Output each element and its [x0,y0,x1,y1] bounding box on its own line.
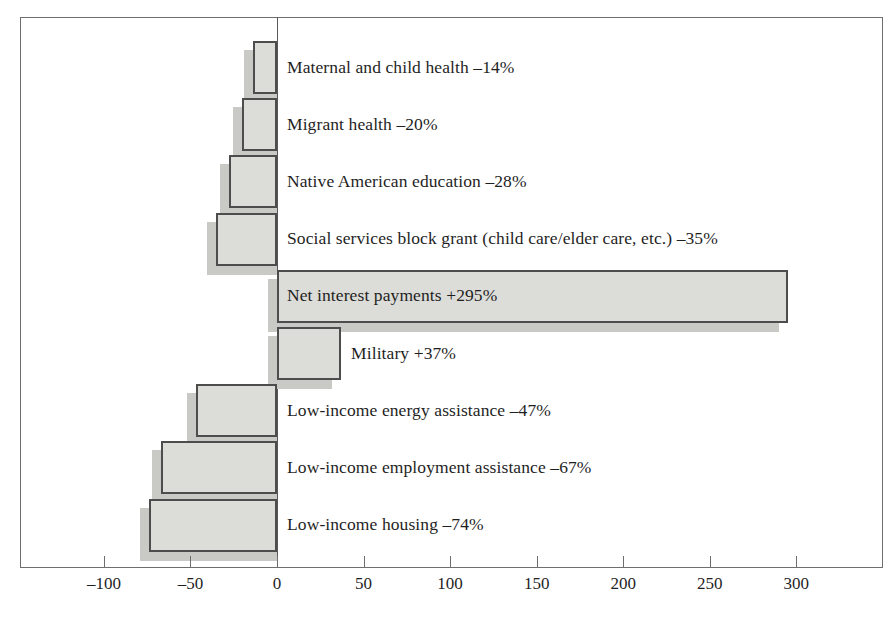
bars-layer: Maternal and child health –14%Migrant he… [0,0,892,621]
x-tick-label-100: 100 [437,575,463,592]
bar-label-2: Native American education –28% [287,173,527,191]
x-axis-right-cap [882,548,883,567]
x-tick-200 [623,556,624,567]
bar-label-5: Military +37% [351,345,456,363]
x-tick-label--100: –100 [87,575,121,592]
x-tick--50 [190,556,191,567]
bar-label-0: Maternal and child health –14% [287,59,515,77]
x-tick-0 [277,556,278,567]
bar-label-6: Low-income energy assistance –47% [287,402,551,420]
bar-label-8: Low-income housing –74% [287,516,484,534]
x-tick-label-150: 150 [524,575,550,592]
x-tick-label--50: –50 [178,575,204,592]
x-tick-300 [796,556,797,567]
x-tick-label-200: 200 [610,575,636,592]
x-tick-100 [450,556,451,567]
bar-7[interactable] [161,441,277,494]
bar-chart: Maternal and child health –14%Migrant he… [0,0,892,621]
bar-label-7: Low-income employment assistance –67% [287,459,592,477]
bar-label-4: Net interest payments +295% [287,287,497,305]
bar-0[interactable] [253,41,277,94]
bar-label-3: Social services block grant (child care/… [287,230,718,248]
x-tick-label-50: 50 [355,575,372,592]
bar-8[interactable] [149,499,277,552]
bar-3[interactable] [216,213,277,266]
bar-1[interactable] [242,98,277,151]
x-tick-label-0: 0 [273,575,282,592]
x-tick-150 [537,556,538,567]
x-tick-label-300: 300 [784,575,810,592]
bar-2[interactable] [229,155,277,208]
x-axis-line [20,567,883,568]
bar-5[interactable] [277,327,341,380]
bar-label-1: Migrant health –20% [287,116,438,134]
x-tick-50 [364,556,365,567]
bar-6[interactable] [196,384,277,437]
x-tick--100 [104,556,105,567]
x-tick-250 [710,556,711,567]
x-tick-label-250: 250 [697,575,723,592]
